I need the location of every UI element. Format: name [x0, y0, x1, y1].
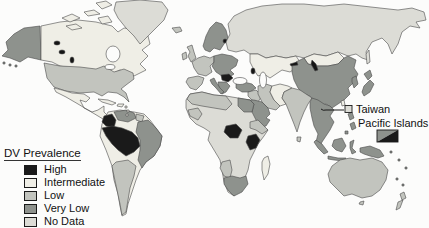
lake-winnipeg	[70, 57, 74, 63]
region-scandinavia	[203, 22, 228, 52]
region-west-europe	[192, 56, 214, 76]
legend-label-intermediate: Intermediate	[44, 176, 105, 189]
aleutian-islands-dots	[3, 62, 17, 67]
region-iceland	[172, 27, 182, 33]
legend-swatch-no-data	[24, 217, 37, 227]
black-sea	[233, 78, 247, 85]
aral-sea	[251, 68, 255, 74]
legend-item-very-low: Very Low	[24, 202, 122, 215]
region-korea	[352, 76, 358, 88]
legend-swatch-intermediate	[24, 178, 37, 188]
legend-label-no-data: No Data	[44, 215, 84, 228]
region-sakhalin	[366, 50, 370, 64]
region-tasmania	[359, 201, 364, 205]
legend-swatch-very-low	[24, 204, 37, 214]
region-philippines	[345, 112, 356, 134]
taiwan-label: Taiwan	[356, 103, 390, 115]
region-japan	[362, 70, 374, 96]
map-legend: DV Prevalence High Intermediate Low Very…	[4, 143, 122, 228]
region-madagascar	[262, 156, 270, 180]
pacific-islands-label: Pacific Islands	[358, 117, 429, 129]
region-ireland	[182, 52, 187, 60]
region-new-guinea	[360, 146, 384, 158]
legend-label-very-low: Very Low	[44, 202, 89, 215]
region-brazil	[136, 120, 162, 168]
region-south-africa	[224, 176, 248, 196]
legend-item-low: Low	[24, 189, 122, 202]
great-lakes	[105, 65, 115, 70]
region-uk	[187, 45, 196, 62]
legend-item-intermediate: Intermediate	[24, 176, 122, 189]
region-namibia	[220, 160, 232, 178]
region-russia	[226, 4, 426, 60]
region-india	[282, 88, 312, 142]
region-new-zealand	[396, 192, 406, 210]
legend-title: DV Prevalence	[4, 147, 81, 161]
legend-swatch-high	[24, 165, 37, 175]
legend-label-high: High	[44, 163, 67, 176]
caspian-sea	[260, 72, 267, 88]
taiwan-swatch	[345, 106, 352, 113]
region-australia	[328, 158, 388, 198]
region-caribbean-islands	[98, 99, 124, 107]
region-taiwan-island	[341, 100, 345, 106]
great-slave-lake	[59, 50, 65, 54]
great-bear-lake	[54, 41, 60, 45]
region-iberia	[186, 76, 204, 90]
hudson-bay	[106, 46, 120, 62]
legend-label-low: Low	[44, 189, 64, 202]
legend-item-no-data: No Data	[24, 215, 122, 228]
region-alaska	[2, 26, 41, 62]
dv-prevalence-map-figure: Taiwan Pacific Islands DV Prevalence Hig…	[0, 0, 429, 228]
pacific-islands-swatch	[377, 130, 398, 142]
legend-swatch-low	[24, 191, 37, 201]
legend-item-high: High	[24, 163, 122, 176]
pacific-islands-dots	[390, 151, 407, 186]
